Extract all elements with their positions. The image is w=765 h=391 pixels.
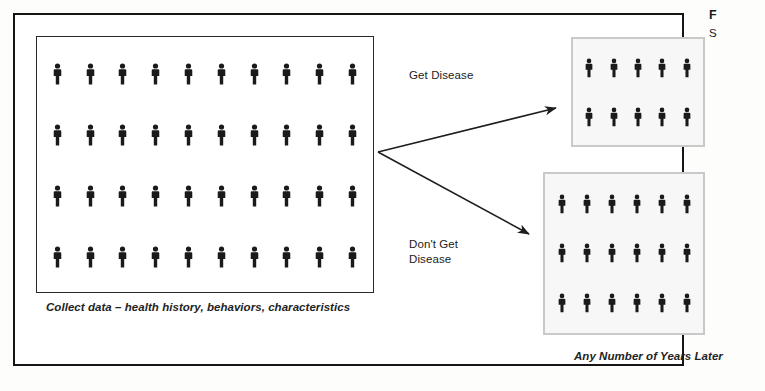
person-icon xyxy=(282,185,291,207)
person-icon xyxy=(250,63,259,85)
figure-page: Get Disease Don't Get Disease Collect da… xyxy=(0,0,765,391)
branch-label-get-disease: Get Disease xyxy=(409,68,473,83)
no-disease-person-grid xyxy=(545,174,703,333)
person-icon xyxy=(658,58,666,78)
person-icon xyxy=(348,246,357,268)
cohort-population-box xyxy=(36,36,374,293)
person-icon xyxy=(658,293,666,313)
person-icon xyxy=(282,63,291,85)
person-icon xyxy=(583,293,591,313)
person-icon xyxy=(151,124,160,146)
person-icon xyxy=(118,63,127,85)
margin-caption-title: F xyxy=(709,7,765,25)
person-icon xyxy=(217,124,226,146)
person-icon xyxy=(217,63,226,85)
person-icon xyxy=(86,63,95,85)
person-icon xyxy=(583,194,591,214)
branch-label-dont-get-disease: Don't Get Disease xyxy=(409,237,458,266)
person-icon xyxy=(633,243,641,263)
person-icon xyxy=(348,185,357,207)
person-icon xyxy=(558,243,566,263)
person-icon xyxy=(151,185,160,207)
disease-outcome-box xyxy=(571,37,705,147)
person-icon xyxy=(217,185,226,207)
person-icon xyxy=(184,63,193,85)
arrow-down-right-icon xyxy=(378,152,529,234)
person-icon xyxy=(608,293,616,313)
person-icon xyxy=(250,246,259,268)
person-icon xyxy=(315,246,324,268)
person-icon xyxy=(610,107,618,127)
person-icon xyxy=(315,185,324,207)
person-icon xyxy=(683,293,691,313)
person-icon xyxy=(118,185,127,207)
person-icon xyxy=(633,194,641,214)
person-icon xyxy=(315,124,324,146)
person-icon xyxy=(53,185,62,207)
person-icon xyxy=(282,246,291,268)
person-icon xyxy=(585,58,593,78)
person-icon xyxy=(184,185,193,207)
person-icon xyxy=(53,63,62,85)
person-icon xyxy=(658,194,666,214)
person-icon xyxy=(558,194,566,214)
disease-person-grid xyxy=(573,39,703,145)
person-icon xyxy=(53,124,62,146)
person-icon xyxy=(118,246,127,268)
person-icon xyxy=(683,194,691,214)
person-icon xyxy=(184,124,193,146)
person-icon xyxy=(86,246,95,268)
margin-figure-caption: F S xyxy=(709,7,765,41)
person-icon xyxy=(118,124,127,146)
person-icon xyxy=(86,185,95,207)
cohort-caption: Collect data – health history, behaviors… xyxy=(46,301,350,313)
person-icon xyxy=(250,124,259,146)
person-icon xyxy=(610,58,618,78)
person-icon xyxy=(683,107,691,127)
person-icon xyxy=(282,124,291,146)
person-icon xyxy=(608,194,616,214)
person-icon xyxy=(151,63,160,85)
person-icon xyxy=(634,107,642,127)
person-icon xyxy=(151,246,160,268)
person-icon xyxy=(683,58,691,78)
arrow-up-right-icon xyxy=(378,108,556,152)
person-icon xyxy=(184,246,193,268)
person-icon xyxy=(634,58,642,78)
person-icon xyxy=(53,246,62,268)
person-icon xyxy=(558,293,566,313)
timeline-caption: Any Number of Years Later xyxy=(574,350,723,362)
person-icon xyxy=(608,243,616,263)
person-icon xyxy=(583,243,591,263)
person-icon xyxy=(633,293,641,313)
cohort-person-grid xyxy=(37,37,373,292)
no-disease-outcome-box xyxy=(543,172,705,335)
person-icon xyxy=(658,243,666,263)
person-icon xyxy=(315,63,324,85)
person-icon xyxy=(348,63,357,85)
person-icon xyxy=(683,243,691,263)
person-icon xyxy=(658,107,666,127)
person-icon xyxy=(86,124,95,146)
person-icon xyxy=(250,185,259,207)
margin-caption-subtitle: S xyxy=(709,25,765,41)
figure-outer-frame: Get Disease Don't Get Disease Collect da… xyxy=(13,13,684,366)
person-icon xyxy=(585,107,593,127)
person-icon xyxy=(217,246,226,268)
person-icon xyxy=(348,124,357,146)
